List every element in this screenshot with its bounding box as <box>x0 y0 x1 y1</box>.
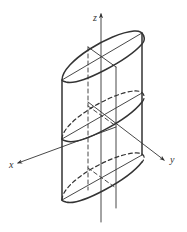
top-ellipse <box>62 31 144 82</box>
y-axis-label: y <box>170 155 174 165</box>
z-axis-label: z <box>93 13 97 23</box>
y-axis <box>88 102 164 160</box>
cylinder-diagram <box>0 0 187 232</box>
bottom-ellipse <box>62 153 144 203</box>
middle-ellipse <box>62 91 144 142</box>
x-axis-label: x <box>9 160 13 170</box>
